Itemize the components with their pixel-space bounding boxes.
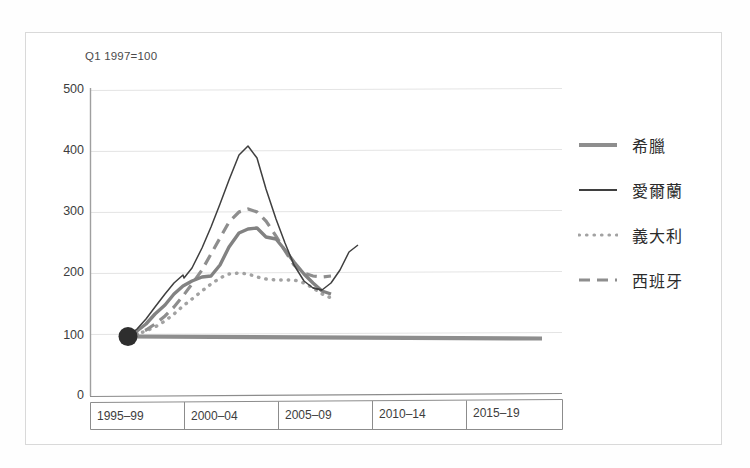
y-tick-0: 0 [38,388,84,402]
legend-swatch-dashed [578,273,618,287]
x-tick-2010-14: 2010–14 [379,407,426,421]
legend-label-greece: 希臘 [632,133,666,157]
y-tick-200: 200 [38,265,84,279]
legend-item-ireland[interactable]: 愛爾蘭 [578,167,683,212]
legend-swatch-solid-thick [578,138,618,152]
y-tick-400: 400 [38,143,84,157]
x-tick-2015-19: 2015–19 [473,406,520,420]
figure-canvas: Q1 1997=100 [0,0,750,468]
series-line-ireland [128,146,322,336]
legend-swatch-dotted [578,228,618,242]
series-line-italy [128,273,331,336]
series-line-ireland-tail [313,245,358,290]
y-tick-100: 100 [38,328,84,342]
legend-item-spain[interactable]: 西班牙 [578,257,683,302]
legend-label-ireland: 愛爾蘭 [632,178,683,202]
gridlines [90,89,562,335]
start-point-marker [119,327,138,346]
legend-label-italy: 義大利 [632,223,683,247]
series-line-greece [128,337,542,339]
legend-label-spain: 西班牙 [632,268,683,292]
y-tick-500: 500 [38,82,84,96]
y-tick-300: 300 [38,204,84,218]
legend-item-greece[interactable]: 希臘 [578,122,683,167]
x-tick-2005-09: 2005–09 [285,408,332,422]
legend-item-italy[interactable]: 義大利 [578,212,683,257]
series-line-ireland-heavy [128,228,331,336]
legend-swatch-solid-thin [578,183,618,197]
chart-legend: 希臘 愛爾蘭 義大利 西班牙 [578,122,683,302]
x-tick-2000-04: 2000–04 [191,409,238,423]
x-tick-1995-99: 1995–99 [97,409,144,423]
x-axis-line [90,394,562,397]
